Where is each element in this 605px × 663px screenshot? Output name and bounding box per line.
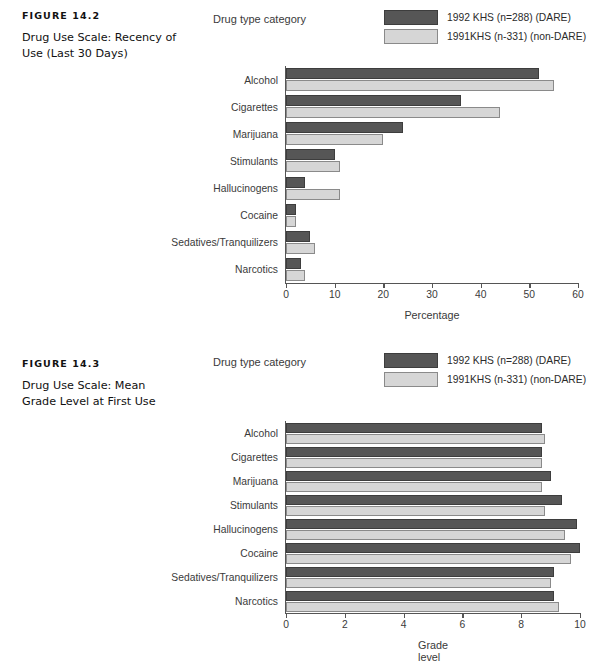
category-label: Hallucinogens [0, 183, 278, 194]
bar [286, 458, 542, 468]
category-label: Alcohol [0, 428, 278, 439]
category-label: Sedatives/Tranquilizers [0, 237, 278, 248]
x-axis-tick-label: 30 [426, 289, 437, 300]
x-axis-tick-label: 2 [342, 619, 348, 630]
category-label: Cigarettes [0, 101, 278, 112]
figure-caption-14-2: FIGURE 14.2 Drug Use Scale: Recency of U… [22, 10, 182, 61]
bar [286, 189, 340, 200]
bar [286, 482, 542, 492]
bar [286, 519, 577, 529]
bar [286, 95, 461, 106]
legend-label: 1992 KHS (n=288) (DARE) [447, 12, 571, 23]
bar [286, 231, 310, 242]
category-label: Stimulants [0, 500, 278, 511]
x-axis-tick-label: 40 [475, 289, 486, 300]
bar [286, 423, 542, 433]
axis-title-drug-type-category: Drug type category [213, 356, 306, 368]
figure-title: Drug Use Scale: Recency of Use (Last 30 … [22, 30, 182, 61]
legend-item: 1992 KHS (n=288) (DARE) [384, 353, 586, 368]
figure-number: FIGURE 14.3 [22, 358, 182, 369]
category-label: Sedatives/Tranquilizers [0, 572, 278, 583]
figure-number: FIGURE 14.2 [22, 10, 182, 21]
category-label: Narcotics [0, 264, 278, 275]
bar [286, 134, 383, 145]
legend-item: 1991KHS (n-331) (non-DARE) [384, 29, 586, 44]
category-label: Stimulants [0, 155, 278, 166]
bar [286, 270, 305, 281]
chart-legend: 1992 KHS (n=288) (DARE) 1991KHS (n-331) … [384, 10, 586, 48]
bar [286, 530, 565, 540]
bar [286, 177, 305, 188]
x-axis-line [285, 613, 581, 614]
x-axis-title: Grade level [418, 639, 448, 663]
bar [286, 68, 539, 79]
legend-label: 1992 KHS (n=288) (DARE) [447, 355, 571, 366]
x-axis-tick-label: 10 [329, 289, 340, 300]
category-label: Marijuana [0, 476, 278, 487]
x-axis-tick-label: 4 [401, 619, 407, 630]
category-label: Alcohol [0, 74, 278, 85]
category-label: Cigarettes [0, 452, 278, 463]
legend-label: 1991KHS (n-331) (non-DARE) [447, 374, 586, 385]
x-axis-tick-label: 0 [283, 289, 289, 300]
bar [286, 447, 542, 457]
legend-swatch-light-icon [384, 372, 438, 387]
x-axis-tick-label: 20 [378, 289, 389, 300]
category-label: Cocaine [0, 548, 278, 559]
figure-caption-14-3: FIGURE 14.3 Drug Use Scale: Mean Grade L… [22, 358, 182, 409]
x-axis-tick-label: 0 [283, 619, 289, 630]
bar [286, 258, 301, 269]
bar [286, 471, 551, 481]
category-label: Marijuana [0, 128, 278, 139]
bar [286, 543, 580, 553]
legend-swatch-dark-icon [384, 353, 438, 368]
category-label: Narcotics [0, 596, 278, 607]
category-label: Hallucinogens [0, 524, 278, 535]
x-axis-tick [481, 284, 482, 288]
bar [286, 149, 335, 160]
bar [286, 107, 500, 118]
category-label: Cocaine [0, 210, 278, 221]
x-axis-tick [383, 284, 384, 288]
axis-title-drug-type-category: Drug type category [213, 13, 306, 25]
bar [286, 216, 296, 227]
x-axis-title: Percentage [404, 309, 459, 321]
legend-label: 1991KHS (n-331) (non-DARE) [447, 31, 586, 42]
bar [286, 506, 545, 516]
x-axis-tick [345, 614, 346, 618]
bar [286, 434, 545, 444]
x-axis-tick [462, 614, 463, 618]
chart-legend: 1992 KHS (n=288) (DARE) 1991KHS (n-331) … [384, 353, 586, 391]
x-axis-tick [580, 614, 581, 618]
x-axis-tick [286, 614, 287, 618]
x-axis-tick [286, 284, 287, 288]
x-axis-tick [521, 614, 522, 618]
legend-item: 1991KHS (n-331) (non-DARE) [384, 372, 586, 387]
x-axis-tick-label: 8 [518, 619, 524, 630]
x-axis-tick-label: 50 [524, 289, 535, 300]
bar [286, 578, 551, 588]
bar [286, 122, 403, 133]
x-axis-tick [432, 284, 433, 288]
bar [286, 602, 559, 612]
bar [286, 161, 340, 172]
x-axis-tick [404, 614, 405, 618]
bar [286, 243, 315, 254]
bar [286, 554, 571, 564]
x-axis-tick-label: 60 [572, 289, 583, 300]
x-axis-tick-label: 6 [460, 619, 466, 630]
bar [286, 495, 562, 505]
legend-swatch-dark-icon [384, 10, 438, 25]
x-axis-tick-label: 10 [574, 619, 585, 630]
bar [286, 80, 554, 91]
x-axis-tick [578, 284, 579, 288]
figure-title: Drug Use Scale: Mean Grade Level at Firs… [22, 378, 182, 409]
legend-item: 1992 KHS (n=288) (DARE) [384, 10, 586, 25]
legend-swatch-light-icon [384, 29, 438, 44]
x-axis-tick [529, 284, 530, 288]
bar [286, 591, 554, 601]
bar [286, 567, 554, 577]
x-axis-tick [335, 284, 336, 288]
bar [286, 204, 296, 215]
